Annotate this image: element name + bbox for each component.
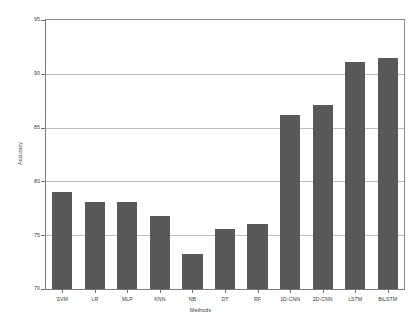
bar (117, 202, 137, 289)
y-axis-tick-label: 95 (2, 17, 40, 22)
x-axis-tick-mark (95, 289, 96, 293)
x-axis-tick-mark (127, 289, 128, 293)
y-axis-tick-label: 70 (2, 286, 40, 291)
bar (215, 229, 235, 289)
bar (52, 192, 72, 289)
y-axis-tick-mark (41, 181, 45, 182)
x-axis-tick-label: 1D-CNN (280, 296, 300, 302)
x-axis-tick-mark (290, 289, 291, 293)
bar (313, 105, 333, 289)
x-axis-tick-label: KNN (154, 296, 165, 302)
y-axis-title: Accuracy (17, 95, 23, 165)
accuracy-bar-chart: 707580859095 SVMLRMLPKNNNBDTRF1D-CNN2D-C… (0, 0, 415, 326)
x-axis-tick-label: MLP (122, 296, 133, 302)
x-axis-tick-mark (355, 289, 356, 293)
y-axis-tick-label: 80 (2, 179, 40, 184)
x-axis-tick-label: DT (221, 296, 228, 302)
x-axis-tick-label: LR (91, 296, 98, 302)
y-axis-tick-label: 90 (2, 71, 40, 76)
x-axis-tick-label: BiLSTM (378, 296, 397, 302)
x-axis-tick-mark (225, 289, 226, 293)
x-axis-tick-mark (192, 289, 193, 293)
x-axis-tick-label: 2D-CNN (313, 296, 333, 302)
bar (85, 202, 105, 289)
bar (345, 62, 365, 289)
bar (150, 216, 170, 289)
bar (247, 224, 267, 289)
y-axis-tick-mark (41, 289, 45, 290)
x-axis-tick-mark (160, 289, 161, 293)
x-axis-tick-mark (323, 289, 324, 293)
y-axis-tick-mark (41, 20, 45, 21)
plot-area (46, 20, 404, 289)
bar (280, 115, 300, 289)
x-axis-title: Methods (0, 307, 415, 313)
plot-right-spine (404, 19, 405, 290)
x-axis-tick-mark (258, 289, 259, 293)
y-axis-tick-mark (41, 74, 45, 75)
x-axis-tick-mark (388, 289, 389, 293)
x-axis-title-text: Methods (190, 307, 211, 313)
x-axis-tick-label: NB (189, 296, 196, 302)
y-axis-tick-label: 75 (2, 233, 40, 238)
y-axis-tick-mark (41, 235, 45, 236)
bar (378, 58, 398, 289)
x-axis-tick-mark (62, 289, 63, 293)
x-axis-tick-label: RF (254, 296, 261, 302)
bar (182, 254, 202, 290)
y-axis-tick-mark (41, 128, 45, 129)
x-axis-tick-label: SVM (57, 296, 68, 302)
x-axis-tick-label: LSTM (348, 296, 362, 302)
